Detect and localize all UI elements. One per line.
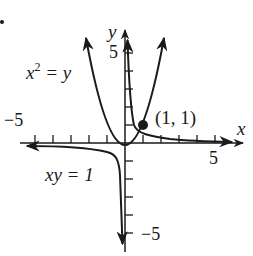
x-neg-tick-label: −5 [4,110,23,130]
y-pos-tick-label: 5 [109,42,118,62]
hyperbola-branch-negative [27,146,123,244]
y-axis-label: y [106,21,117,42]
x-pos-tick-label: 5 [209,148,218,168]
x-axis-label: x [236,118,246,139]
graph-canvas: y 5 x 5 −5 −5 x2 = y xy = 1 (1, 1) [0,0,253,256]
parabola-label: x2 = y [25,60,72,83]
bullet-dot [0,20,4,24]
hyperbola-label: xy = 1 [44,164,94,185]
point-label: (1, 1) [155,107,196,129]
intersection-point [138,120,148,130]
y-neg-tick-label: −5 [141,224,160,244]
